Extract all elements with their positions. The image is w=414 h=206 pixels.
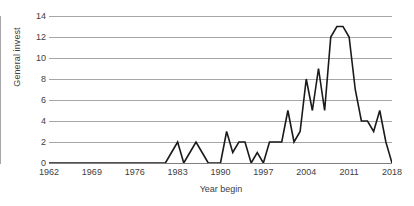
series-line-general-invest	[49, 27, 392, 164]
plot-area	[49, 16, 392, 163]
line-chart: General invest 02468101214 1962196919761…	[0, 0, 414, 206]
x-axis-line	[49, 163, 392, 164]
x-tick-label: 1983	[168, 167, 188, 177]
x-tick-label: 2004	[296, 167, 316, 177]
x-axis-title: Year begin	[49, 184, 393, 194]
x-tick-label: 2018	[382, 167, 402, 177]
x-tick-label: 1990	[210, 167, 230, 177]
x-tick-label: 2011	[339, 167, 358, 177]
x-tick-label: 1976	[125, 167, 145, 177]
x-tick-label: 1969	[82, 167, 102, 177]
series-svg	[49, 16, 392, 163]
x-tick-label: 1997	[253, 167, 273, 177]
x-tick-label: 1962	[39, 167, 59, 177]
y-axis-line	[0, 16, 1, 164]
